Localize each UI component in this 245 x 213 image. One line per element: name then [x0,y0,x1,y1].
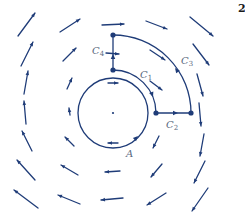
curve-c4 [111,35,116,70]
field-arrow-icon [21,42,33,66]
field-arrow-icon [153,136,159,148]
field-arrow-icon [68,108,72,115]
label-c4: C4 [92,45,105,58]
field-arrow-icon [67,78,72,89]
field-arrow-icon [147,193,166,205]
field-arrow-icon [193,44,209,65]
field-arrow-icon [14,190,38,208]
field-arrow-icon [190,17,213,36]
field-arrow-icon [18,13,35,36]
field-arrow-icon [146,21,167,29]
label-c2: C2 [166,119,178,132]
field-arrow-icon [194,161,205,183]
field-arrow-icon [108,141,118,145]
arrowhead-icon [114,81,118,85]
center-dot [112,112,114,114]
field-arrow-icon [23,101,27,124]
arrowhead-icon [120,22,124,26]
direction-arrow-icon [149,92,153,97]
field-arrow-icon [105,170,120,174]
field-arrow-icon [150,50,165,60]
arrowhead-icon [115,52,119,56]
field-arrow-icon [61,165,78,175]
field-arrow-icon [60,19,80,32]
field-arrow-icon [101,198,123,202]
field-arrow-icon [108,81,118,85]
arrowhead-icon [108,141,112,145]
arrowhead-icon [199,122,203,126]
field-arrow-icon [24,71,29,94]
vertex-dot [110,67,115,72]
vertex-dot [110,32,115,37]
vertex-dot [188,110,193,115]
label-a: A [125,148,133,159]
arrowhead-icon [163,26,167,29]
field-arrow-icon [192,188,208,211]
curve-labels: AC1C2C3C4 [92,45,193,159]
field-arrow-icon [58,195,80,204]
field-arrow-icon [22,131,32,151]
field-arrow-icon [65,137,74,146]
arrowhead-icon [105,170,109,174]
field-arrow-icon [63,48,76,61]
vertex-dot [153,110,158,115]
field-arrow-icon [197,74,204,96]
field-arrow-icon [150,81,162,90]
field-arrow-icon [151,164,162,177]
label-c1: C1 [140,69,152,82]
field-arrow-icon [199,103,203,126]
direction-arrow-icon [173,111,178,116]
label-c3: C3 [181,55,193,68]
arrowhead-icon [23,101,27,105]
curve-c2 [156,111,191,116]
field-arrow-icon [102,22,124,26]
field-arrow-icon [199,134,204,156]
vector-field-diagram: AC1C2C3C4 [0,0,245,213]
field-arrow-icon [17,160,35,180]
direction-arrow-icon [111,54,116,59]
